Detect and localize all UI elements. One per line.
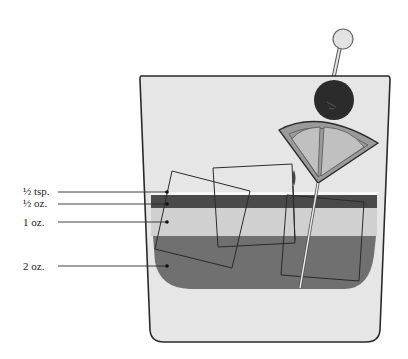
layer-two-oz <box>153 236 376 289</box>
layer-half-oz <box>151 195 377 208</box>
label-half-oz: ½ oz. <box>23 197 47 209</box>
label-two-oz: 2 oz. <box>23 260 44 272</box>
layer-half-tsp <box>150 192 378 195</box>
layer-one-oz <box>151 208 377 236</box>
drink-diagram <box>0 0 408 359</box>
label-half-tsp: ½ tsp. <box>23 185 50 197</box>
cocktail-pick-top <box>333 29 353 80</box>
olive <box>314 80 354 120</box>
label-one-oz: 1 oz. <box>23 216 44 228</box>
